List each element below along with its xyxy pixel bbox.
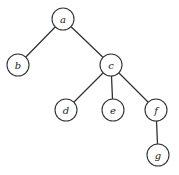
- node-g: g: [147, 144, 169, 166]
- node-label: c: [108, 60, 114, 71]
- node-label: b: [15, 60, 21, 71]
- node-d: d: [55, 99, 77, 121]
- node-f: f: [145, 99, 167, 121]
- nodes: abcdefg: [7, 8, 169, 166]
- node-label: g: [155, 150, 161, 161]
- node-label: d: [63, 105, 69, 116]
- node-label: a: [60, 14, 66, 25]
- node-label: e: [110, 105, 116, 116]
- edges: [18, 19, 158, 155]
- node-c: c: [100, 54, 122, 76]
- node-e: e: [102, 99, 124, 121]
- node-a: a: [52, 8, 74, 30]
- tree-diagram: abcdefg: [0, 0, 179, 175]
- node-b: b: [7, 54, 29, 76]
